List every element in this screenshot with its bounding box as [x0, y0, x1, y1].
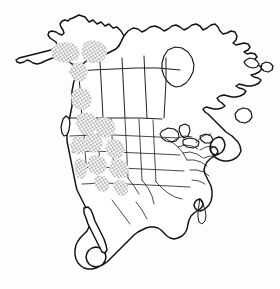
north-america-map: [0, 0, 280, 289]
distribution-map-figure: Outline map of North America showing pol…: [0, 0, 280, 289]
island-newfoundland: [235, 108, 252, 123]
